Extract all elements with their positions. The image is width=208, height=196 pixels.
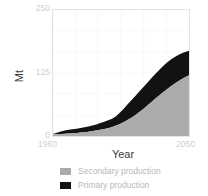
legend-swatch-secondary-icon bbox=[60, 168, 71, 175]
legend-item-primary-production: Primary production bbox=[60, 179, 208, 191]
stacked-area-plot bbox=[53, 10, 189, 136]
legend-label-secondary: Secondary production bbox=[78, 166, 161, 176]
x-axis-label: Year bbox=[92, 148, 154, 160]
y-tick-label-250: 250 bbox=[26, 4, 50, 13]
legend-item-secondary-production: Secondary production bbox=[60, 165, 208, 177]
legend-label-primary: Primary production bbox=[78, 180, 149, 190]
plot-area bbox=[52, 9, 190, 137]
legend-swatch-primary-icon bbox=[60, 182, 71, 189]
y-tick-label-125: 125 bbox=[26, 68, 50, 77]
chart-figure: Mt 250 125 0 1960 2 bbox=[0, 0, 208, 196]
x-tick-label-2050: 2050 bbox=[176, 139, 195, 149]
x-tick-label-1960: 1960 bbox=[38, 139, 57, 149]
chart-legend: Secondary production Primary production bbox=[60, 165, 208, 193]
